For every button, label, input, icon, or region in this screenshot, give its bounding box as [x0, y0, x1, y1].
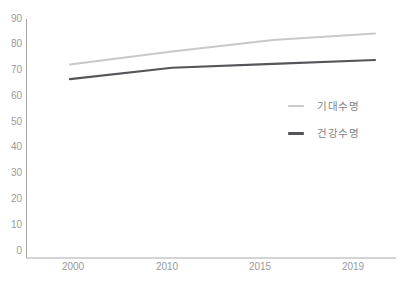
y-tick-label: 70	[11, 64, 23, 75]
y-tick-label: 50	[11, 116, 23, 127]
x-tick-label: 2019	[342, 261, 365, 272]
legend-label-life-expectancy: 기대수명	[317, 100, 359, 112]
legend-label-healthy-life-expectancy: 건강수명	[317, 127, 359, 139]
y-tick-label: 90	[11, 13, 23, 24]
life-expectancy-line	[70, 33, 375, 64]
y-tick-label: 20	[11, 193, 23, 204]
legend-item-healthy-life-expectancy: 건강수명	[288, 127, 359, 139]
y-tick-label: 60	[11, 90, 23, 101]
legend: 기대수명 건강수명	[288, 100, 359, 154]
line-chart: 01020304050607080902000201020152019 기대수명…	[0, 0, 408, 286]
x-tick-label: 2000	[62, 261, 85, 272]
y-tick-label: 10	[11, 219, 23, 230]
life-expectancy-line-swatch	[288, 105, 304, 107]
y-tick-label: 0	[16, 245, 22, 256]
x-tick-label: 2010	[156, 261, 179, 272]
y-tick-label: 80	[11, 38, 23, 49]
y-tick-label: 40	[11, 141, 23, 152]
x-tick-label: 2015	[249, 261, 272, 272]
healthy-life-expectancy-line-swatch	[288, 132, 304, 135]
healthy-life-expectancy-line	[70, 60, 375, 79]
legend-item-life-expectancy: 기대수명	[288, 100, 359, 112]
y-tick-label: 30	[11, 167, 23, 178]
